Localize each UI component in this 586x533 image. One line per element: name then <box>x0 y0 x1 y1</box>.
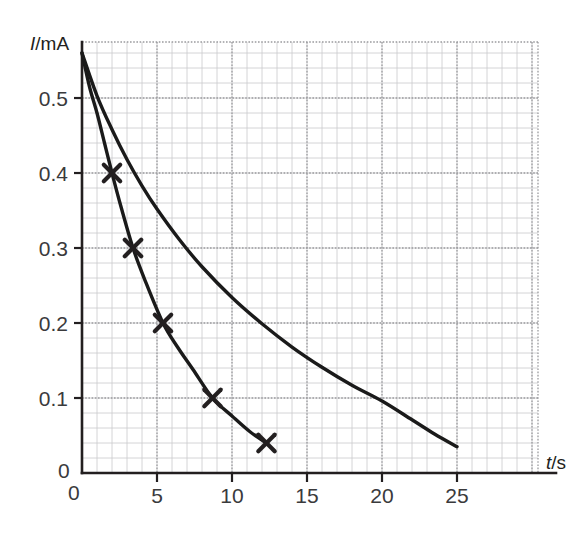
axis-ticks <box>74 98 457 482</box>
y-tick-label: 0.2 <box>39 312 68 335</box>
data-series <box>82 53 457 447</box>
origin-label-x: 0 <box>68 481 80 504</box>
x-axis-title: t/s <box>546 452 566 473</box>
origin-label-y: 0 <box>58 459 70 482</box>
y-tick-label: 0.4 <box>39 162 69 185</box>
minor-gridlines <box>82 42 538 473</box>
plot-canvas: 510152025 0.10.20.30.40.5 I/mA t/s 0 0 <box>0 0 586 533</box>
graph-figure: 510152025 0.10.20.30.40.5 I/mA t/s 0 0 <box>0 0 586 533</box>
y-axis-title: I/mA <box>30 33 69 54</box>
major-gridlines <box>82 42 538 473</box>
curve-slow-decay-curve <box>82 53 457 447</box>
y-tick-label: 0.1 <box>39 387 68 410</box>
x-axis-tick-labels: 510152025 <box>151 484 469 507</box>
x-tick-label: 15 <box>295 484 318 507</box>
y-tick-label: 0.3 <box>39 237 68 260</box>
y-axis-tick-labels: 0.10.20.30.40.5 <box>39 87 69 410</box>
y-tick-label: 0.5 <box>39 87 68 110</box>
x-tick-label: 25 <box>445 484 468 507</box>
x-tick-label: 10 <box>220 484 243 507</box>
x-tick-label: 20 <box>370 484 393 507</box>
axes <box>82 42 556 473</box>
x-tick-label: 5 <box>151 484 163 507</box>
